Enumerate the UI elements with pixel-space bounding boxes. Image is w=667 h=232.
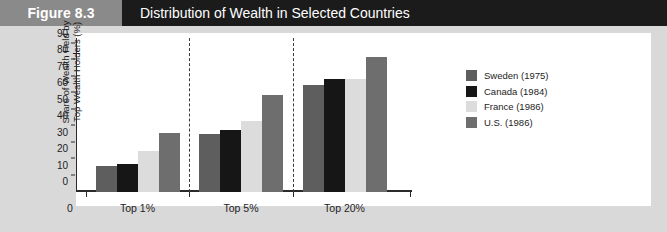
y-tick-label: 90	[46, 28, 68, 39]
y-tick-label: 30	[46, 126, 68, 137]
chart-legend: Sweden (1975)Canada (1984)France (1986)U…	[466, 68, 548, 130]
bar[interactable]	[220, 130, 241, 192]
y-tick-label: 60	[46, 77, 68, 88]
figure-header: Figure 8.3 Distribution of Wealth in Sel…	[0, 0, 667, 26]
y-tick-mark	[71, 108, 75, 109]
legend-swatch	[466, 86, 477, 97]
legend-swatch	[466, 101, 477, 112]
bar[interactable]	[159, 133, 180, 192]
legend-item[interactable]: Sweden (1975)	[466, 68, 548, 84]
legend-item[interactable]: U.S. (1986)	[466, 115, 548, 131]
y-tick-mark	[71, 125, 75, 126]
legend-swatch	[466, 117, 477, 128]
y-tick-mark	[71, 141, 75, 142]
bar[interactable]	[303, 85, 324, 192]
y-tick-mark	[71, 59, 75, 60]
group-divider	[293, 38, 294, 192]
bar-groups: Top 1%Top 5%Top 20%0	[76, 44, 406, 192]
y-tick-label: 70	[46, 60, 68, 71]
legend-label: U.S. (1986)	[484, 117, 533, 128]
y-tick-label: 50	[46, 93, 68, 104]
legend-label: Sweden (1975)	[484, 70, 548, 81]
y-tick-label: 80	[46, 44, 68, 55]
y-axis-ticks: 0102030405060708090	[50, 44, 72, 192]
bar-group	[199, 44, 283, 192]
legend-item[interactable]: Canada (1984)	[466, 84, 548, 100]
plot-area: Share of Wealth Held by Top Wealth Holde…	[76, 44, 406, 192]
bar[interactable]	[117, 164, 138, 192]
bar[interactable]	[138, 151, 159, 192]
x-origin-label: 0	[67, 202, 73, 214]
legend-label: France (1986)	[484, 101, 544, 112]
y-tick-label: 10	[46, 159, 68, 170]
x-tick-mark	[86, 192, 87, 197]
x-tick-label: Top 5%	[223, 202, 258, 214]
x-tick-mark	[189, 192, 190, 197]
y-tick-mark	[71, 75, 75, 76]
y-tick-label: 20	[46, 143, 68, 154]
legend-swatch	[466, 70, 477, 81]
bar-group	[96, 44, 180, 192]
bar[interactable]	[241, 121, 262, 192]
bar[interactable]	[366, 57, 387, 192]
legend-label: Canada (1984)	[484, 86, 547, 97]
y-tick-mark	[71, 92, 75, 93]
bar[interactable]	[324, 79, 345, 192]
bar[interactable]	[262, 95, 283, 192]
figure-title: Distribution of Wealth in Selected Count…	[122, 0, 667, 26]
y-tick-label: 40	[46, 110, 68, 121]
x-tick-mark	[293, 192, 294, 197]
figure-container: Figure 8.3 Distribution of Wealth in Sel…	[0, 0, 667, 232]
legend-item[interactable]: France (1986)	[466, 99, 548, 115]
bar[interactable]	[199, 134, 220, 192]
y-tick-mark	[71, 174, 75, 175]
bar[interactable]	[345, 79, 366, 192]
x-tick-mark	[410, 192, 411, 197]
x-tick-label: Top 1%	[120, 202, 155, 214]
y-tick-mark	[71, 43, 75, 44]
bar-group	[303, 44, 387, 192]
y-tick-mark	[71, 158, 75, 159]
x-tick-label: Top 20%	[324, 202, 365, 214]
bar[interactable]	[96, 166, 117, 192]
group-divider	[189, 38, 190, 192]
y-tick-label: 0	[46, 176, 68, 187]
